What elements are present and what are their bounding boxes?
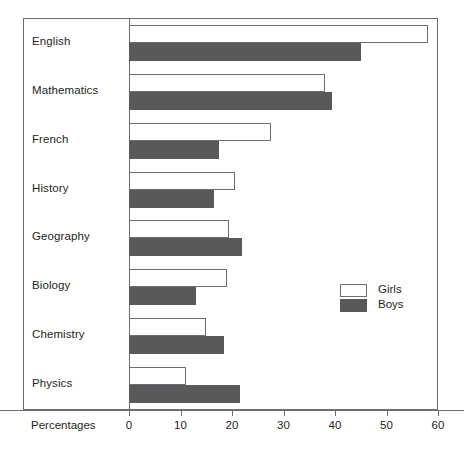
x-axis-tick-label: 30 — [277, 419, 290, 431]
bar-girls-chemistry — [129, 318, 206, 336]
category-label: Physics — [32, 377, 72, 389]
plot-area — [129, 19, 438, 409]
x-axis-tick-label: 60 — [432, 419, 445, 431]
bar-boys-history — [129, 190, 214, 208]
bar-chart: EnglishMathematicsFrenchHistoryGeography… — [0, 0, 464, 451]
x-axis-tick — [181, 410, 182, 416]
x-axis-tick-label: 50 — [380, 419, 393, 431]
x-axis-tick-label: 0 — [126, 419, 132, 431]
bar-girls-mathematics — [129, 74, 325, 92]
category-label: Geography — [32, 230, 90, 242]
bar-boys-english — [129, 43, 361, 61]
category-label: Chemistry — [32, 328, 85, 340]
bar-girls-geography — [129, 220, 229, 238]
bar-boys-geography — [129, 238, 242, 256]
x-axis-tick — [438, 410, 439, 416]
x-axis-title: Percentages — [31, 419, 96, 431]
bar-boys-physics — [129, 385, 240, 403]
x-axis-tick — [284, 410, 285, 416]
x-axis-tick — [129, 410, 130, 416]
category-label: Mathematics — [32, 84, 98, 96]
bar-girls-physics — [129, 367, 186, 385]
legend-label: Boys — [378, 298, 404, 310]
x-axis-tick — [387, 410, 388, 416]
bar-girls-french — [129, 123, 271, 141]
category-label: Biology — [32, 279, 70, 291]
bar-girls-english — [129, 25, 428, 43]
bar-boys-french — [129, 141, 219, 159]
x-axis-tick-label: 10 — [174, 419, 187, 431]
category-label: History — [32, 182, 68, 194]
bar-boys-mathematics — [129, 92, 332, 110]
category-axis-labels: EnglishMathematicsFrenchHistoryGeography… — [24, 19, 129, 409]
legend-label: Girls — [378, 283, 402, 295]
legend-swatch-girls — [340, 284, 367, 297]
category-label: English — [32, 35, 70, 47]
legend-swatch-boys — [340, 299, 367, 312]
bar-boys-biology — [129, 287, 196, 305]
x-axis-tick-label: 20 — [226, 419, 239, 431]
x-axis-tick — [232, 410, 233, 416]
x-axis-tick — [335, 410, 336, 416]
x-axis-tick-label: 40 — [329, 419, 342, 431]
bar-boys-chemistry — [129, 336, 224, 354]
bar-girls-biology — [129, 269, 227, 287]
category-label: French — [32, 133, 68, 145]
bar-girls-history — [129, 172, 235, 190]
